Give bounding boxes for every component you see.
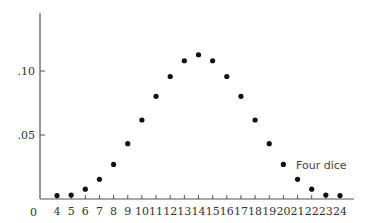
data-point [83,187,88,192]
x-tick-label: 19 [262,205,276,218]
x-tick-label: 24 [333,205,347,218]
x-tick-label: 23 [319,205,333,218]
data-points [54,52,342,198]
data-point [196,52,201,57]
data-point [111,162,116,167]
x-tick-label: 17 [234,205,248,218]
data-point [323,192,328,197]
data-point [281,162,286,167]
data-point [253,117,258,122]
x-tick-label: 6 [82,205,89,218]
x-tick-label: 5 [68,205,75,218]
x-tick-label: 14 [192,205,206,218]
data-point [153,94,158,99]
x-tick-label: 20 [276,205,290,218]
x-tick-label: 16 [220,205,234,218]
y-tick-label: .05 [18,129,36,142]
x-tick-label: 12 [163,205,177,218]
x-tick-label: 9 [124,205,131,218]
data-point [224,74,229,79]
data-point [337,193,342,198]
x-tick-label: 18 [248,205,262,218]
data-point [139,117,144,122]
x-tick-label: 13 [177,205,191,218]
series-annotation: Four dice [296,159,347,172]
data-point [267,141,272,146]
data-point [238,94,243,99]
x-tick-label: 4 [54,205,61,218]
x-tick-label: 7 [96,205,103,218]
x-tick-label: 22 [305,205,319,218]
data-point [295,177,300,182]
x-tick-label: 15 [206,205,220,218]
x-tick-label: 21 [291,205,305,218]
data-point [210,58,215,63]
data-point [54,193,59,198]
data-point [69,192,74,197]
data-point [182,58,187,63]
x-tick-label: 11 [149,205,163,218]
y-ticks: .05.10 [18,65,46,142]
data-point [125,141,130,146]
origin-label: 0 [30,206,37,219]
x-tick-label: 8 [110,205,117,218]
data-point [168,74,173,79]
data-point [309,187,314,192]
chart: .05.10 456789101112131415161718192021222… [0,0,368,223]
x-tick-label: 10 [135,205,149,218]
y-tick-label: .10 [18,65,36,78]
data-point [97,177,102,182]
